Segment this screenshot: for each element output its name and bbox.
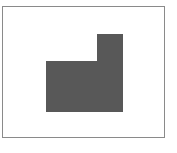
shape-upper-column [97, 34, 123, 62]
shape-lower-block [46, 61, 123, 112]
